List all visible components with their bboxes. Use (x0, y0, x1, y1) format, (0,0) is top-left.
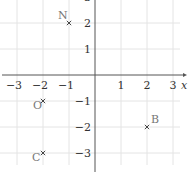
data-points: NOCB (32, 9, 159, 164)
x-tick-label: −3 (6, 79, 22, 92)
y-tick-label: 1 (84, 43, 91, 56)
point-label: C (32, 151, 40, 164)
point-label: N (58, 9, 68, 22)
x-tick-label: −1 (58, 79, 74, 92)
coordinate-plane: −3−2−1123x21−1−2−33 NOCB (0, 0, 192, 174)
x-tick-label: 3 (170, 79, 177, 92)
axes (2, 0, 187, 172)
point-label: O (33, 99, 42, 112)
x-tick-label: −2 (32, 79, 48, 92)
point-label: B (151, 113, 159, 126)
x-axis-arrow-icon (183, 73, 187, 77)
y-tick-label-clipped: 3 (84, 0, 91, 4)
y-tick-label: −1 (75, 95, 91, 108)
y-tick-label: 2 (84, 17, 91, 30)
x-tick-label: 2 (144, 79, 151, 92)
y-tick-label: −2 (75, 121, 91, 134)
tick-labels: −3−2−1123x21−1−2−33 (6, 0, 188, 160)
x-tick-label: 1 (118, 79, 125, 92)
y-tick-label: −3 (75, 147, 91, 160)
x-axis-label: x (181, 79, 188, 92)
